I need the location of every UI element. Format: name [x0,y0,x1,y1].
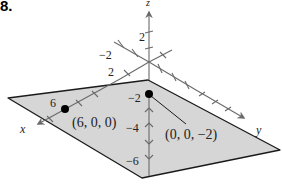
x-axis-back [114,42,149,62]
axes-upper [114,12,196,90]
tick-z-neg6: −6 [126,154,139,168]
y-axis-label: y [255,123,262,137]
point-label-6-0-0: (6, 0, 0) [72,115,117,131]
tick-z-2: 2 [139,30,145,44]
point-0-0-neg2 [145,90,153,98]
point-label-0-0-neg2: (0, 0, −2) [165,127,218,143]
plane [8,80,280,178]
3d-plane-diagram: 8. [0,0,282,185]
tick-x-6: 6 [50,96,56,110]
tick-z-neg4: −4 [126,121,139,135]
x-axis-label: x [19,122,26,136]
z-axis-label: z [145,0,150,8]
tick-z-neg2: −2 [128,91,141,105]
tick-x-2: 2 [108,65,114,79]
point-6-0-0 [61,105,69,113]
problem-number: 8. [0,0,13,14]
tick-y-neg2: −2 [99,48,112,62]
